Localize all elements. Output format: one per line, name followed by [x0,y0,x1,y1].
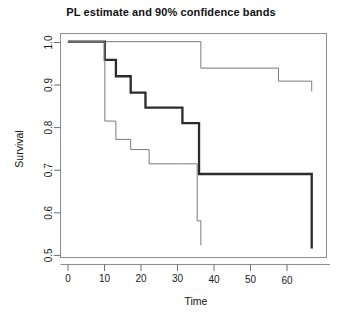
x-tick-label-10: 10 [99,273,111,284]
y-axis-title: Survival [13,130,25,167]
x-axis-ticks [68,265,287,272]
y-axis-tick-labels: 1.0 0.9 0.8 0.7 0.6 0.5 [43,35,54,262]
x-tick-label-20: 20 [135,273,147,284]
x-tick-label-30: 30 [172,273,184,284]
plot-frame [61,34,327,258]
x-axis-title: Time [185,295,208,307]
x-axis-tick-labels: 0 10 20 30 40 50 60 [65,273,293,286]
y-tick-label-0.8: 0.8 [43,120,54,134]
y-tick-label-0.6: 0.6 [43,205,54,219]
chart-figure: PL estimate and 90% confidence bands 1.0… [0,0,342,316]
y-tick-label-0.7: 0.7 [43,163,54,177]
x-tick-label-40: 40 [208,274,220,285]
curve-lower-90-confidence-band [68,42,201,246]
survival-plot: 1.0 0.9 0.8 0.7 0.6 0.5 Survival 0 10 20… [0,0,342,316]
x-tick-label-50: 50 [245,274,257,285]
y-tick-label-0.5: 0.5 [43,248,54,262]
y-tick-label-1.0: 1.0 [43,35,54,49]
y-tick-label-0.9: 0.9 [43,78,54,92]
x-tick-label-0: 0 [65,273,71,284]
y-axis-ticks [54,43,61,256]
curve-group [68,42,312,249]
x-tick-label-60: 60 [281,275,293,286]
